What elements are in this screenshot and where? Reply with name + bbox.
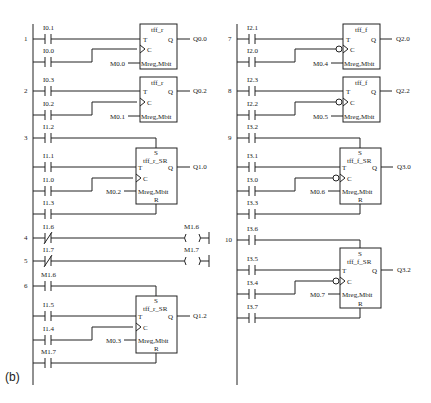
falling-edge-icon <box>340 277 345 285</box>
contact-no-icon <box>45 34 51 44</box>
rising-edge-icon <box>136 323 141 331</box>
figure-caption: (b) <box>5 370 20 384</box>
block-title: tff_r_SR <box>143 157 168 165</box>
pin-S: S <box>154 297 158 305</box>
pin-T: T <box>346 36 351 44</box>
pin-T: T <box>342 267 347 275</box>
network-number: 4 <box>24 234 28 242</box>
network-6: 6 M1.6 I1.5 I1.4 M1.7 S tff_r_SR T C Q M… <box>24 271 207 368</box>
contact-label: I2.3 <box>247 76 259 84</box>
contact-no-icon <box>45 57 51 67</box>
pin-mem: Mreg,Mbit <box>141 60 172 68</box>
coil-icon <box>185 234 201 242</box>
pin-S: S <box>154 149 158 157</box>
contact-nc-icon <box>44 232 52 244</box>
network-9: 9 I3.2 I3.1 I3.0 I3.3 S tff_f_SR T C Q M… <box>228 123 411 219</box>
pin-R: R <box>154 345 159 353</box>
output-label: Q1.2 <box>193 312 207 320</box>
contact-no-icon <box>45 335 51 345</box>
contact-no-icon <box>45 86 51 96</box>
output-label: Q1.0 <box>193 163 207 171</box>
pin-mem: Mreg,Mbit <box>344 60 375 68</box>
pin-Q: Q <box>371 36 376 44</box>
contact-label: I3.1 <box>247 152 259 160</box>
pin-C: C <box>350 99 355 107</box>
network-5: 5 I1.7 M1.7 <box>24 246 209 267</box>
contact-label: I1.5 <box>43 301 55 309</box>
pin-S: S <box>358 149 362 157</box>
contact-label: I0.1 <box>43 24 55 32</box>
contact-label: I3.5 <box>247 255 259 263</box>
network-number: 1 <box>24 35 28 43</box>
contact-no-icon <box>249 133 255 143</box>
contact-no-icon <box>45 281 51 291</box>
falling-edge-icon <box>343 98 348 106</box>
contact-label: I3.7 <box>247 303 259 311</box>
pin-S: S <box>358 250 362 258</box>
negation-circle-icon <box>333 175 339 181</box>
contact-label: I3.4 <box>247 279 259 287</box>
contact-label: I3.0 <box>247 176 259 184</box>
mem-label: M0.1 <box>110 113 125 121</box>
negation-circle-icon <box>336 99 342 105</box>
network-4: 4 I1.6 M1.6 <box>24 223 209 244</box>
pin-T: T <box>138 164 143 172</box>
contact-label: I1.7 <box>43 246 55 254</box>
coil-label: M1.6 <box>184 223 199 231</box>
contact-no-icon <box>249 289 255 299</box>
pin-R: R <box>358 196 363 204</box>
contact-label: M1.7 <box>41 348 56 356</box>
pin-T: T <box>143 88 148 96</box>
block-title: tff_f_SR <box>347 157 372 165</box>
mem-label: M0.0 <box>110 60 125 68</box>
network-number: 7 <box>228 35 232 43</box>
falling-edge-icon <box>343 45 348 53</box>
network-number: 3 <box>24 134 28 142</box>
pin-C: C <box>143 324 148 332</box>
contact-label: I3.3 <box>247 199 259 207</box>
contact-label: I1.2 <box>43 123 55 131</box>
pin-C: C <box>347 175 352 183</box>
contact-no-icon <box>249 86 255 96</box>
contact-label: I3.2 <box>247 123 259 131</box>
mem-label: M0.6 <box>310 188 325 196</box>
block-title: tff_f <box>355 26 368 34</box>
pin-Q: Q <box>168 164 173 172</box>
pin-Q: Q <box>168 88 173 96</box>
pin-mem: Mreg,Mbit <box>342 291 373 299</box>
network-number: 8 <box>228 87 232 95</box>
output-label: Q3.0 <box>397 163 411 171</box>
pin-Q: Q <box>371 88 376 96</box>
pin-Q: Q <box>168 313 173 321</box>
mem-label: M0.7 <box>310 291 325 299</box>
contact-no-icon <box>45 358 51 368</box>
block-title: tff_f_SR <box>347 258 372 266</box>
negation-circle-icon <box>333 278 339 284</box>
contact-no-icon <box>45 162 51 172</box>
contact-no-icon <box>45 110 51 120</box>
contact-label: I2.1 <box>247 24 259 32</box>
contact-label: I1.3 <box>43 199 55 207</box>
network-2: 2 I0.3 I0.2 tff_r T C Q Mreg,Mbit M0.1 Q… <box>24 76 207 122</box>
pin-C: C <box>143 175 148 183</box>
coil-icon <box>185 257 201 265</box>
contact-label: I0.3 <box>43 76 55 84</box>
contact-label: I1.4 <box>43 325 55 333</box>
pin-mem: Mreg,Mbit <box>342 188 373 196</box>
contact-nc-icon <box>44 255 52 267</box>
pin-T: T <box>342 164 347 172</box>
negation-circle-icon <box>336 46 342 52</box>
pin-T: T <box>138 313 143 321</box>
pin-T: T <box>346 88 351 96</box>
contact-no-icon <box>249 235 255 245</box>
pin-mem: Mreg,Mbit <box>138 188 169 196</box>
network-7: 7 I2.1 I2.0 tff_f T C Q Mreg,Mbit M0.4 Q… <box>228 24 410 69</box>
network-number: 10 <box>225 236 233 244</box>
network-8: 8 I2.3 I2.2 tff_f T C Q Mreg,Mbit M0.5 Q… <box>228 76 410 122</box>
contact-label: I2.0 <box>247 47 259 55</box>
mem-label: M0.2 <box>106 188 121 196</box>
network-number: 5 <box>24 257 28 265</box>
pin-Q: Q <box>372 267 377 275</box>
network-number: 9 <box>228 134 232 142</box>
network-1: 1 I0.1 I0.0 tff_r T C Q Mreg,Mbit M0.0 Q… <box>24 24 207 69</box>
